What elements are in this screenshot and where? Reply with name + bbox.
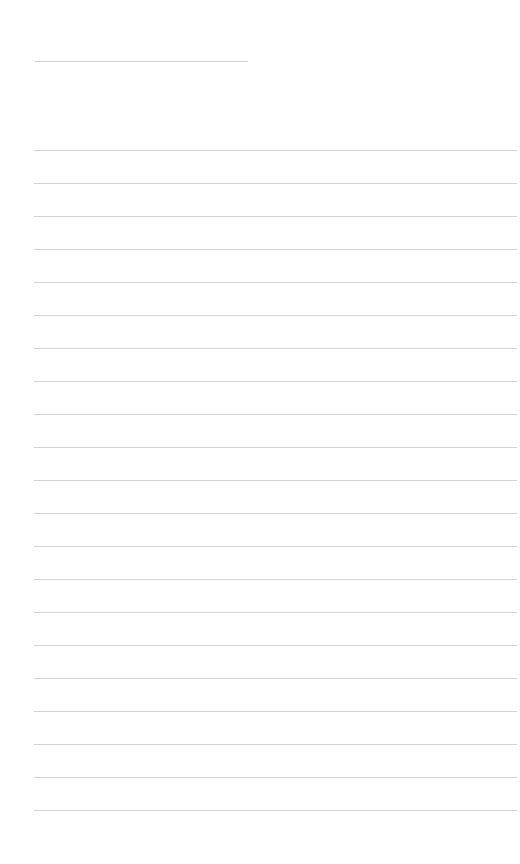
ruled-line <box>34 216 517 217</box>
ruled-line <box>34 711 517 712</box>
ruled-line <box>34 546 517 547</box>
ruled-line <box>34 777 517 778</box>
ruled-line <box>34 810 517 811</box>
ruled-line <box>34 645 517 646</box>
ruled-line <box>34 315 517 316</box>
ruled-line <box>34 579 517 580</box>
ruled-line <box>34 348 517 349</box>
ruled-line <box>34 612 517 613</box>
ruled-line <box>34 381 517 382</box>
ruled-line <box>34 183 517 184</box>
ruled-line <box>34 249 517 250</box>
ruled-line <box>34 480 517 481</box>
ruled-lines <box>0 0 520 864</box>
ruled-line <box>34 678 517 679</box>
ruled-line <box>34 744 517 745</box>
ruled-line <box>34 414 517 415</box>
ruled-line <box>34 150 517 151</box>
ruled-line <box>34 513 517 514</box>
ruled-line <box>34 282 517 283</box>
ruled-line <box>34 447 517 448</box>
